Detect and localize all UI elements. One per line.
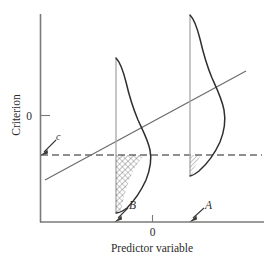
x-axis-zero-label: 0 <box>150 226 156 238</box>
distribution-a-group <box>186 15 225 182</box>
regression-criterion-figure: 0 Criterion 0 Predictor variable c B A <box>0 0 270 266</box>
y-axis-zero-label: 0 <box>26 110 32 122</box>
y-axis-title: Criterion <box>10 94 22 136</box>
cutoff-pointer-group <box>41 140 57 156</box>
predictor-a-mark-label: A <box>204 199 213 211</box>
cutoff-mark-label: c <box>56 131 61 142</box>
predictor-b-pointer-arrowhead <box>115 216 123 223</box>
figure-canvas: 0 Criterion 0 Predictor variable c B A <box>0 0 270 266</box>
distribution-b-group <box>110 58 155 220</box>
predictor-a-pointer-group <box>190 208 205 222</box>
x-axis-title: Predictor variable <box>111 242 193 254</box>
predictor-a-pointer-line <box>193 208 204 218</box>
cutoff-pointer-line <box>44 140 56 152</box>
distribution-a-curve <box>190 15 225 176</box>
axes-group <box>40 14 264 223</box>
predictor-b-mark-label: B <box>129 199 136 211</box>
predictor-a-pointer-arrowhead <box>190 216 198 223</box>
